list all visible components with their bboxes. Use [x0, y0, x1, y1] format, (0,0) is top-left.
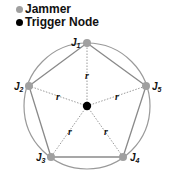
jammer-label-j2: J2	[14, 81, 24, 93]
jammer-label-j3: J3	[36, 152, 46, 164]
radius-label-j2: r	[56, 91, 60, 102]
jammer-label-j4: J4	[130, 152, 140, 164]
jammer-node-j3	[47, 153, 55, 161]
jammer-node-j5	[142, 82, 150, 90]
jammer-pentagon-diagram: r r r r r J1 J2 J3 J4 J5	[0, 0, 170, 182]
radius-label-j1: r	[85, 70, 89, 81]
jammer-label-j1: J1	[71, 37, 81, 49]
jammer-node-j4	[119, 153, 127, 161]
trigger-node	[83, 102, 91, 110]
radius-label-j4: r	[104, 126, 108, 137]
jammer-node-j2	[25, 82, 33, 90]
jammer-label-j5: J5	[152, 81, 162, 93]
jammer-node-j1	[83, 39, 91, 47]
radius-label-j3: r	[68, 126, 72, 137]
radius-label-j5: r	[115, 91, 119, 102]
